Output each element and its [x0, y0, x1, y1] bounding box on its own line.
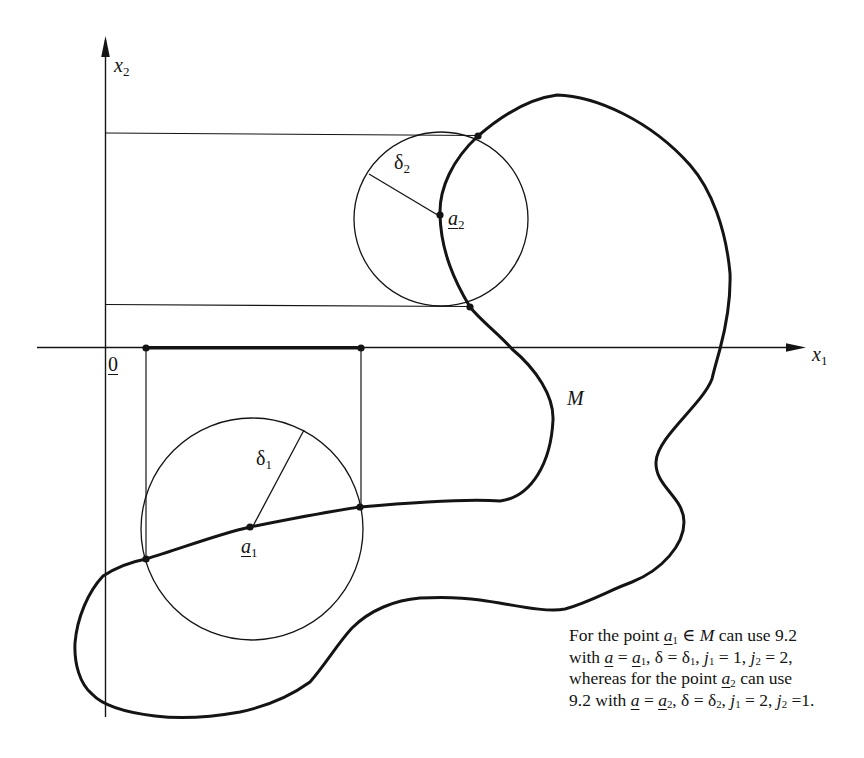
caption-line: 9.2 with a = a2, δ = δ2, j1 = 2, j2 =1. [569, 690, 827, 712]
y-axis-label-base: x [114, 54, 123, 76]
radius-line-delta1 [252, 430, 304, 528]
x-axis-label: x1 [812, 344, 827, 364]
point-a1-label-sub: 1 [251, 545, 258, 560]
y-axis-label-sub: 2 [123, 64, 130, 79]
point-a1-label-base: a [241, 535, 251, 557]
radius-line-delta2 [369, 174, 441, 217]
point-a2-dot [436, 211, 443, 218]
caption-line: with a = a1, δ = δ1, j1 = 1, j2 = 2, [569, 647, 827, 669]
segment-left-dot [142, 344, 149, 351]
point-a2-label-sub: 2 [458, 217, 465, 232]
caption-text: For the point a1 ∈ M can use 9.2with a =… [569, 625, 827, 711]
caption-line: whereas for the point a2 can use [569, 668, 827, 690]
point-a1-dot [246, 523, 253, 530]
set-m-label: M [567, 388, 584, 408]
point-a2-label: a2 [448, 208, 465, 228]
ball1-boundary-right-dot [356, 503, 363, 510]
ball2-boundary-bottom-dot [466, 303, 473, 310]
segment-right-dot [357, 344, 364, 351]
point-a2-label-base: a [448, 207, 458, 229]
y-axis-label: x2 [114, 55, 129, 75]
ball2-boundary-top-dot [474, 132, 481, 139]
projection-line-bottom [106, 305, 470, 307]
delta1-label-sub: 1 [265, 457, 272, 472]
x-axis-label-base: x [812, 343, 821, 365]
point-a1-label: a1 [241, 536, 258, 556]
origin-label: 0 [108, 354, 118, 374]
origin-label-zero: 0 [108, 353, 118, 375]
delta2-label: δ2 [394, 152, 410, 172]
delta2-label-sub: 2 [403, 161, 410, 176]
x1-axis-arrowhead-icon [786, 343, 806, 352]
caption-line: For the point a1 ∈ M can use 9.2 [569, 625, 827, 647]
ball1-boundary-left-dot [142, 555, 149, 562]
figure-page: x2 x1 0 δ2 a2 δ1 a1 M For the point a1 ∈… [0, 0, 864, 758]
x-axis-label-sub: 1 [821, 353, 828, 368]
x2-axis-arrowhead-icon [101, 36, 110, 57]
delta1-label: δ1 [256, 448, 272, 468]
